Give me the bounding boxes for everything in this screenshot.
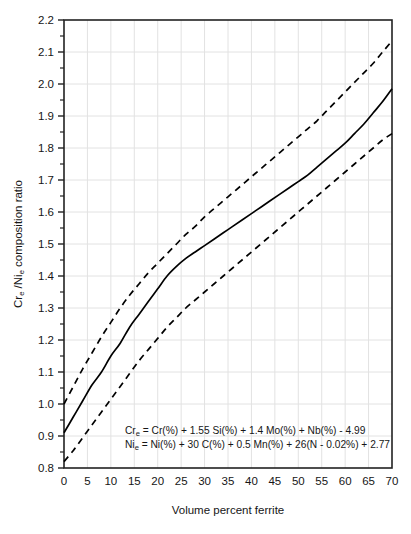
chromium-equivalent-formula-body: = Cr(%) + 1.55 Si(%) + 1.4 Mo(%) + Nb(%)… xyxy=(140,425,366,436)
x-axis-title: Volume percent ferrite xyxy=(172,504,285,516)
y-tick-label: 0.8 xyxy=(38,462,54,474)
x-tick-label: 60 xyxy=(339,475,352,487)
y-tick-label: 1.6 xyxy=(38,206,54,218)
x-tick-label: 15 xyxy=(128,475,141,487)
y-tick-label: 1.3 xyxy=(38,302,54,314)
y-axis-title-text: Cre /Nie composition ratio xyxy=(12,180,26,308)
x-tick-label: 35 xyxy=(222,475,235,487)
chart-background xyxy=(0,0,411,534)
y-axis-title-pre: Cr xyxy=(12,296,24,308)
chromium-equivalent-formula-symbol: Cr xyxy=(125,425,136,436)
x-tick-label: 5 xyxy=(84,475,90,487)
y-tick-label: 1.4 xyxy=(38,270,55,282)
nickel-equivalent-formula-symbol: Ni xyxy=(125,439,135,450)
x-tick-label: 40 xyxy=(245,475,258,487)
x-tick-label: 20 xyxy=(151,475,164,487)
y-tick-label: 1.7 xyxy=(38,174,54,186)
y-axis-title: Cre /Nie composition ratio xyxy=(12,180,26,308)
y-tick-label: 2.0 xyxy=(38,78,54,90)
x-tick-label: 30 xyxy=(198,475,211,487)
x-axis-title-text: Volume percent ferrite xyxy=(172,504,285,516)
y-tick-label: 2.1 xyxy=(38,46,54,58)
x-tick-label: 65 xyxy=(362,475,375,487)
y-tick-label: 1.0 xyxy=(38,398,54,410)
x-tick-label: 50 xyxy=(292,475,305,487)
x-tick-labels: 0510152025303540455055606570 xyxy=(61,475,399,487)
y-tick-labels: 0.80.91.01.11.21.31.41.51.61.71.81.92.02… xyxy=(38,14,55,474)
y-tick-label: 1.8 xyxy=(38,142,54,154)
x-tick-label: 55 xyxy=(315,475,328,487)
x-tick-label: 45 xyxy=(268,475,281,487)
y-tick-label: 1.1 xyxy=(38,366,54,378)
ferrite-composition-chart: 0510152025303540455055606570 0.80.91.01.… xyxy=(0,0,411,534)
y-tick-label: 1.2 xyxy=(38,334,54,346)
y-tick-label: 1.9 xyxy=(38,110,54,122)
annotation-layer: Cre = Cr(%) + 1.55 Si(%) + 1.4 Mo(%) + N… xyxy=(125,425,390,452)
chart-canvas: 0510152025303540455055606570 0.80.91.01.… xyxy=(0,0,411,534)
y-axis-title-mid: /Ni xyxy=(12,274,24,291)
x-tick-label: 70 xyxy=(386,475,399,487)
x-tick-label: 10 xyxy=(104,475,117,487)
nickel-equivalent-formula-body: = Ni(%) + 30 C(%) + 0.5 Mn(%) + 26(N - 0… xyxy=(139,439,390,450)
x-tick-label: 0 xyxy=(61,475,67,487)
y-tick-label: 1.5 xyxy=(38,238,54,250)
y-tick-label: 2.2 xyxy=(38,14,54,26)
y-tick-label: 0.9 xyxy=(38,430,54,442)
y-axis-title-post: composition ratio xyxy=(12,180,24,270)
x-tick-label: 25 xyxy=(175,475,188,487)
